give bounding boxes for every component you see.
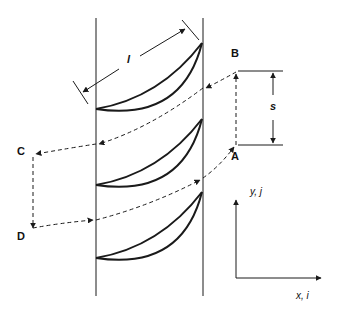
y-axis-label: y, j (250, 186, 262, 197)
periodic-path (33, 72, 236, 228)
x-axis-label: x, i (296, 290, 309, 301)
point-a-label: A (231, 150, 239, 162)
pitch-dimension (238, 71, 283, 145)
blade-1 (96, 43, 202, 111)
blade-2 (96, 119, 202, 187)
blade-3 (96, 192, 202, 260)
coordinate-axes (236, 200, 321, 278)
chord-dimension (73, 20, 199, 104)
point-b-label: B (231, 47, 239, 59)
pitch-label: s (270, 100, 276, 112)
cascade-diagram (0, 0, 339, 319)
chord-label: l (127, 53, 130, 65)
point-c-label: C (17, 145, 25, 157)
point-d-label: D (17, 230, 25, 242)
